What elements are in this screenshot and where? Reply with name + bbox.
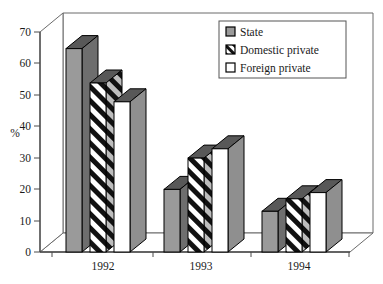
chart-legend: State Domestic private Foreign private: [219, 21, 346, 78]
bar-front-face: [66, 49, 82, 252]
bar-1992-foreign-private: [114, 89, 146, 252]
chart-canvas: 70 60 50 40 30 20 10 0 %: [0, 0, 383, 284]
y-tick-label-10: 10: [20, 215, 32, 227]
legend-swatch-white-icon: [226, 63, 235, 72]
plot-left-wall: [40, 13, 63, 252]
y-tick-label-0: 0: [25, 246, 31, 258]
legend-label-domestic-private: Domestic private: [240, 44, 319, 57]
bar-front-face: [164, 189, 180, 252]
bar-side-face: [130, 89, 146, 252]
bar-chart-figure: 70 60 50 40 30 20 10 0 %: [0, 0, 383, 284]
bar-1994-foreign-private: [310, 180, 342, 252]
y-tick-label-40: 40: [20, 120, 32, 132]
bar-front-face: [286, 199, 302, 252]
bar-front-face: [90, 83, 106, 252]
legend-item-state[interactable]: State: [226, 26, 263, 38]
bar-1993-foreign-private: [212, 136, 244, 252]
x-tick-label-1994: 1994: [288, 260, 311, 272]
y-tick-label-20: 20: [20, 183, 32, 195]
bar-front-face: [310, 193, 326, 252]
bar-front-face: [262, 211, 278, 252]
legend-label-state: State: [240, 26, 263, 38]
x-tick-label-1993: 1993: [190, 260, 213, 272]
y-tick-label-30: 30: [20, 152, 32, 164]
legend-label-foreign-private: Foreign private: [240, 62, 311, 75]
bar-front-face: [212, 149, 228, 252]
bar-front-face: [188, 158, 204, 252]
x-tick-label-1992: 1992: [92, 260, 115, 272]
y-axis-title: %: [10, 127, 20, 139]
legend-item-domestic-private[interactable]: Domestic private: [226, 44, 319, 57]
y-tick-label-70: 70: [20, 26, 32, 38]
bar-side-face: [228, 136, 244, 252]
bar-front-face: [114, 102, 130, 252]
bar-side-face: [326, 180, 342, 252]
y-tick-label-50: 50: [20, 89, 32, 101]
legend-swatch-striped-icon: [226, 45, 235, 54]
legend-swatch-gray-icon: [226, 27, 235, 36]
y-tick-label-60: 60: [20, 57, 32, 69]
